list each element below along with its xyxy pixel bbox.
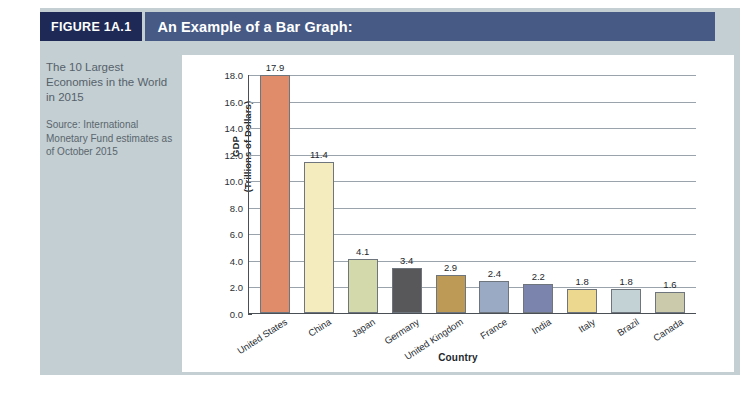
bar[interactable] (611, 289, 641, 313)
bar-slot[interactable]: 2.9 (436, 75, 466, 313)
y-tick-label: 8.0 (230, 202, 243, 213)
bar-value-label: 17.9 (266, 62, 285, 73)
y-tick-label: 6.0 (230, 229, 243, 240)
bar[interactable] (260, 75, 290, 313)
bar-value-label: 2.2 (532, 271, 545, 282)
bar-series: 17.911.44.13.42.92.42.21.81.81.6 (249, 75, 696, 313)
caption-title: The 10 Largest Economies in the World in… (46, 60, 178, 105)
plot-wrapper: GDP (Trillions of Dollars) 0.02.04.06.08… (182, 55, 734, 372)
bar-slot[interactable]: 11.4 (304, 75, 334, 313)
plot-area: 17.911.44.13.42.92.42.21.81.81.6 (248, 75, 696, 314)
bar-value-label: 2.4 (488, 268, 501, 279)
bar[interactable] (348, 259, 378, 313)
bar-slot[interactable]: 3.4 (392, 75, 422, 313)
bar-slot[interactable]: 1.6 (655, 75, 685, 313)
y-tick-label: 14.0 (225, 123, 244, 134)
x-axis-title: Country (182, 352, 734, 363)
y-tick-label: 18.0 (225, 70, 244, 81)
bar-value-label: 2.9 (444, 262, 457, 273)
bar-slot[interactable]: 17.9 (260, 75, 290, 313)
y-tick-mark (248, 314, 252, 315)
figure-panel: FIGURE 1A.1 An Example of a Bar Graph: T… (40, 8, 740, 375)
figure-number-badge: FIGURE 1A.1 (40, 12, 142, 41)
bar-value-label: 4.1 (356, 246, 369, 257)
figure-title: An Example of a Bar Graph: (142, 12, 715, 41)
figure-header: FIGURE 1A.1 An Example of a Bar Graph: (40, 12, 715, 41)
bar-slot[interactable]: 2.4 (479, 75, 509, 313)
y-tick-label: 0.0 (230, 309, 243, 320)
bar-slot[interactable]: 2.2 (523, 75, 553, 313)
y-tick-label: 10.0 (225, 176, 244, 187)
y-tick-label: 16.0 (225, 96, 244, 107)
y-tick-label: 4.0 (230, 255, 243, 266)
figure-caption-block: The 10 Largest Economies in the World in… (46, 60, 178, 159)
bar-value-label: 1.6 (663, 279, 676, 290)
y-tick-label: 2.0 (230, 282, 243, 293)
caption-source: Source: International Monetary Fund esti… (46, 118, 178, 159)
bar[interactable] (567, 289, 597, 313)
bar-slot[interactable]: 4.1 (348, 75, 378, 313)
bar-slot[interactable]: 1.8 (611, 75, 641, 313)
bar-value-label: 11.4 (310, 149, 328, 160)
y-tick-label: 12.0 (225, 149, 244, 160)
bar-slot[interactable]: 1.8 (567, 75, 597, 313)
chart-panel: GDP (Trillions of Dollars) 0.02.04.06.08… (182, 55, 734, 372)
y-axis-ticks: 0.02.04.06.08.010.012.014.016.018.0 (214, 75, 248, 314)
bar-value-label: 1.8 (576, 276, 589, 287)
bar-value-label: 3.4 (400, 255, 413, 266)
bar-value-label: 1.8 (619, 276, 632, 287)
